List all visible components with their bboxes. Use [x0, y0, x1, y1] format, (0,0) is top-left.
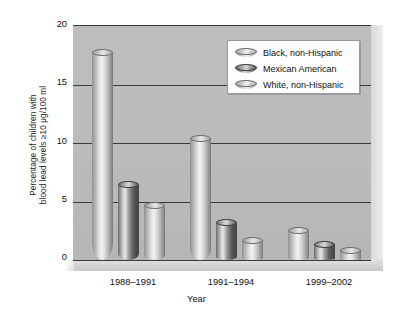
- bar-1991-1994-black-non-hispanic: [190, 135, 211, 260]
- bar-cap: [144, 202, 165, 209]
- bar-1988-1991-mexican-american: [118, 181, 139, 260]
- bar-1999-2002-black-non-hispanic: [288, 227, 309, 260]
- y-tick-label-0: 0: [45, 252, 67, 262]
- cylinder-light-icon: [235, 80, 257, 91]
- legend-item-label: Black, non-Hispanic: [263, 48, 343, 58]
- bar-cap: [340, 247, 361, 254]
- plot-right-wall: [371, 25, 383, 271]
- bar-body: [216, 223, 237, 260]
- bar-1991-1994-mexican-american: [216, 219, 237, 260]
- bar-body: [144, 206, 165, 260]
- bar-cap: [314, 241, 335, 248]
- y-tick-label-15: 15: [45, 77, 67, 87]
- bar-body: [190, 139, 211, 260]
- axis-baseline: [73, 260, 371, 261]
- gridline-10: [73, 143, 371, 144]
- bar-1988-1991-white-non-hispanic: [144, 202, 165, 260]
- bar-cap: [216, 219, 237, 226]
- legend-item-label: White, non-Hispanic: [263, 80, 344, 90]
- bar-1999-2002-mexican-american: [314, 241, 335, 260]
- bar-body: [92, 53, 113, 260]
- bar-cap: [190, 135, 211, 142]
- bar-cap: [92, 49, 113, 56]
- bar-body: [288, 231, 309, 260]
- bar-1988-1991-black-non-hispanic: [92, 49, 113, 260]
- legend-item-black-non-hispanic: Black, non-Hispanic: [235, 46, 343, 60]
- legend-item-label: Mexican American: [263, 64, 337, 74]
- bar-chart: Percentage of children with blood lead l…: [0, 0, 393, 322]
- x-tick-label-1988-1991: 1988–1991: [98, 277, 168, 287]
- bar-body: [118, 185, 139, 260]
- x-axis-title: Year: [0, 294, 393, 304]
- cylinder-dark-icon: [235, 64, 257, 75]
- bar-cap: [242, 237, 263, 244]
- legend-item-mexican-american: Mexican American: [235, 62, 337, 76]
- bar-1999-2002-white-non-hispanic: [340, 247, 361, 260]
- bar-cap: [118, 181, 139, 188]
- cylinder-light-icon: [235, 48, 257, 59]
- y-tick-label-5: 5: [45, 194, 67, 204]
- bar-1991-1994-white-non-hispanic: [242, 237, 263, 260]
- x-tick-label-1999-2002: 1999–2002: [294, 277, 364, 287]
- x-tick-label-1991-1994: 1991–1994: [196, 277, 266, 287]
- legend-item-white-non-hispanic: White, non-Hispanic: [235, 78, 344, 92]
- legend: Black, non-Hispanic Mexican American Whi…: [227, 40, 360, 94]
- bar-cap: [288, 227, 309, 234]
- y-tick-label-20: 20: [45, 19, 67, 29]
- y-tick-label-10: 10: [45, 136, 67, 146]
